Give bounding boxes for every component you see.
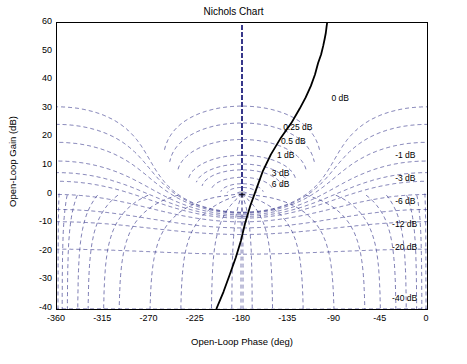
x-tick-label: -135 [267,313,307,323]
contour-label: -1 dB [395,150,415,160]
contour-label: 6 dB [272,179,290,189]
x-tick-label: -90 [314,313,354,323]
x-tick-label: -360 [36,313,76,323]
y-tick-label: 40 [18,73,52,83]
y-tick-label: -40 [18,302,52,312]
y-tick-label: -30 [18,273,52,283]
y-tick-label: 0 [18,188,52,198]
contour-label: 0.5 dB [281,136,306,146]
contour-label: -40 dB [392,293,417,303]
x-tick-label: -225 [175,313,215,323]
x-tick-label: 0 [406,313,446,323]
x-tick-label: -315 [82,313,122,323]
contour-label: -20 dB [392,242,417,252]
chart-title: Nichols Chart [0,6,467,17]
y-axis-label: Open-Loop Gain (dB) [2,22,16,310]
contour-label: 1 dB [277,150,295,160]
x-tick-label: -180 [221,313,261,323]
contour-label: 0.25 dB [283,122,312,132]
plot-canvas [57,23,427,309]
y-tick-label: 60 [18,16,52,26]
y-tick-label: 30 [18,102,52,112]
x-tick-label: -45 [360,313,400,323]
y-tick-label: 20 [18,130,52,140]
contour-label: -3 dB [395,173,415,183]
contour-label: 3 dB [272,168,290,178]
nichols-chart-figure: Nichols Chart Open-Loop Gain (dB) Open-L… [0,0,467,364]
plot-area [56,22,428,310]
y-tick-label: 10 [18,159,52,169]
y-tick-label: -20 [18,245,52,255]
y-tick-label: 50 [18,45,52,55]
contour-label: 0 dB [331,93,349,103]
x-tick-label: -270 [129,313,169,323]
contour-label: -6 dB [395,196,415,206]
y-tick-label: -10 [18,216,52,226]
y-axis-label-text: Open-Loop Gain (dB) [7,67,18,257]
contour-label: -12 dB [392,219,417,229]
x-axis-label: Open-Loop Phase (deg) [56,336,428,347]
